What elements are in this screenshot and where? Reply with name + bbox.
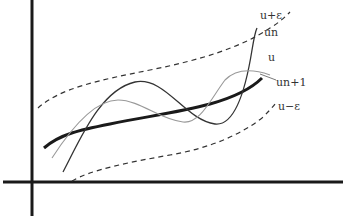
label-lower-band: u−ε bbox=[278, 101, 300, 112]
label-u: u bbox=[268, 52, 275, 63]
label-un1: un+1 bbox=[276, 77, 306, 88]
lower-band-curve bbox=[72, 104, 275, 181]
upper-band-curve bbox=[38, 12, 290, 108]
label-un: un bbox=[264, 27, 278, 38]
label-upper-band: u+ε bbox=[260, 10, 282, 21]
